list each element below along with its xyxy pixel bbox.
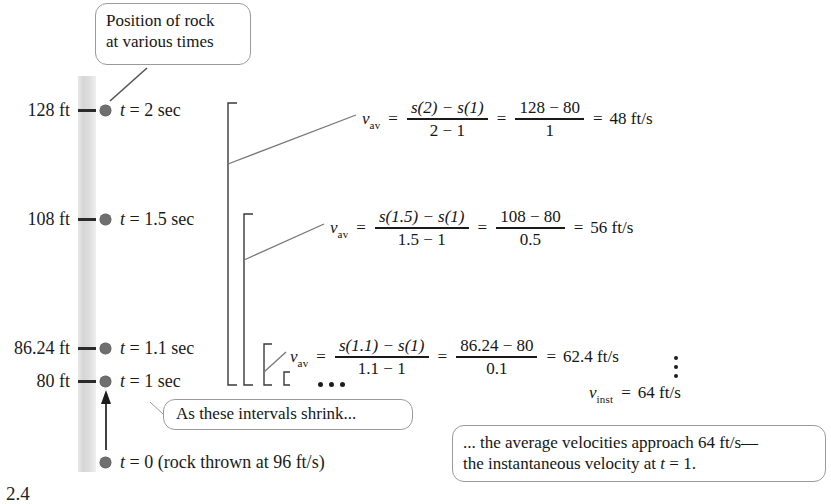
time-label-t15: t = 1.5 sec <box>120 207 194 231</box>
dot <box>674 374 678 378</box>
fraction-numerator: s(1.1) − s(1) <box>335 336 429 356</box>
equals-sign: = <box>546 347 556 367</box>
equals-sign: = <box>388 109 398 129</box>
callout-conclusion: ... the average velocities approach 64 f… <box>452 425 826 482</box>
fraction-numerator: s(1.5) − s(1) <box>375 207 469 227</box>
height-label-108: 108 ft <box>28 207 71 231</box>
equation-lhs-symbol: vav <box>290 347 309 367</box>
callout-position-line2: at various times <box>106 31 240 52</box>
tick-mark-86 <box>78 347 96 350</box>
fraction-denominator: 2 − 1 <box>426 120 469 140</box>
fraction-denominator: 0.1 <box>482 358 511 378</box>
equation-instantaneous: vinst = 64 ft/s <box>589 383 681 403</box>
tick-mark-128 <box>78 109 96 112</box>
fraction-numeric: 108 − 80 0.5 <box>496 207 565 249</box>
equals-sign: = <box>497 109 507 129</box>
callout-conclusion-line2: the instantaneous velocity at t = 1. <box>463 453 815 474</box>
position-dot-t1 <box>100 376 111 387</box>
fraction-denominator: 0.5 <box>516 229 545 249</box>
fraction-denominator: 1.5 − 1 <box>394 229 450 249</box>
equals-sign: = <box>593 109 603 129</box>
leader-line-position-callout <box>110 68 147 101</box>
dot <box>329 382 334 387</box>
fraction-numerator: 108 − 80 <box>496 207 565 227</box>
dot <box>674 356 678 360</box>
equation-lhs-subscript: av <box>298 357 309 369</box>
equals-sign: = <box>621 383 631 403</box>
position-row-t1: 80 ft t = 1 sec <box>0 369 260 393</box>
time-label-t1: t = 1 sec <box>120 369 181 393</box>
dot <box>340 382 345 387</box>
leader-line-shrink-callout <box>150 402 163 414</box>
fraction-numeric: 86.24 − 80 0.1 <box>456 336 537 378</box>
origin-text: = 0 (rock thrown at 96 ft/s) <box>125 452 325 472</box>
equals-sign: = <box>356 218 366 238</box>
equation-av-t11: vav = s(1.1) − s(1) 1.1 − 1 = 86.24 − 80… <box>290 336 619 378</box>
equals-sign: = <box>478 218 488 238</box>
equation-av-t2: vav = s(2) − s(1) 2 − 1 = 128 − 80 1 = 4… <box>362 98 653 140</box>
equation-result: 62.4 ft/s <box>563 347 619 367</box>
equation-lhs-symbol: vinst <box>589 383 614 403</box>
bracket-leader-1 <box>228 115 356 164</box>
height-label-128: 128 ft <box>28 98 71 122</box>
height-label-80: 80 ft <box>37 369 71 393</box>
figure-caption: 2.4 <box>6 483 30 504</box>
position-dot-t11 <box>100 343 111 354</box>
fraction-numerator: 128 − 80 <box>515 98 584 118</box>
time-value: = 1 sec <box>125 371 181 391</box>
dot <box>674 365 678 369</box>
equals-sign: = <box>574 218 584 238</box>
time-label-t11: t = 1.1 sec <box>120 336 194 360</box>
callout-intervals-shrink: As these intervals shrink... <box>163 399 413 430</box>
callout-position-of-rock: Position of rock at various times <box>95 3 251 65</box>
callout-position-line1: Position of rock <box>106 10 240 31</box>
fraction-numerator: 86.24 − 80 <box>456 336 537 356</box>
equation-lhs-subscript: av <box>370 119 381 131</box>
time-value: = 1.5 sec <box>125 209 194 229</box>
position-dot-t2 <box>100 105 111 116</box>
position-row-t15: 108 ft t = 1.5 sec <box>0 207 260 231</box>
height-label-86: 86.24 ft <box>14 336 70 360</box>
equation-lhs-subscript: inst <box>597 393 614 405</box>
tick-mark-108 <box>78 218 96 221</box>
equals-sign: = <box>438 347 448 367</box>
fraction-numeric: 128 − 80 1 <box>515 98 584 140</box>
equation-result: 48 ft/s <box>610 109 653 129</box>
callout-conclusion-line1: ... the average velocities approach 64 f… <box>463 432 815 453</box>
position-dot-t0 <box>100 457 111 468</box>
equation-av-t15: vav = s(1.5) − s(1) 1.5 − 1 = 108 − 80 0… <box>330 207 633 249</box>
fraction-symbolic: s(1.5) − s(1) 1.5 − 1 <box>375 207 469 249</box>
fraction-symbolic: s(1.1) − s(1) 1.1 − 1 <box>335 336 429 378</box>
vertical-ellipsis-icon <box>674 356 678 378</box>
interval-bracket-inner <box>264 344 272 385</box>
conclusion-text-b: = 1. <box>665 454 696 473</box>
position-row-t11: 86.24 ft t = 1.1 sec <box>0 336 260 360</box>
time-value: = 2 sec <box>125 100 181 120</box>
position-row-t0: t = 0 (rock thrown at 96 ft/s) <box>0 450 420 474</box>
equals-sign: = <box>316 347 326 367</box>
position-row-t2: 128 ft t = 2 sec <box>0 98 260 122</box>
time-label-t0: t = 0 (rock thrown at 96 ft/s) <box>120 450 325 474</box>
horizontal-ellipsis-icon <box>318 382 345 387</box>
time-label-t2: t = 2 sec <box>120 98 181 122</box>
equation-lhs-subscript: av <box>338 228 349 240</box>
equation-lhs-symbol: vav <box>330 218 349 238</box>
dot <box>318 382 323 387</box>
equation-lhs-symbol: vav <box>362 109 381 129</box>
conclusion-text-a: the instantaneous velocity at <box>463 454 660 473</box>
tick-mark-80 <box>78 380 96 383</box>
fraction-numerator: s(2) − s(1) <box>407 98 488 118</box>
time-value: = 1.1 sec <box>125 338 194 358</box>
callout-shrink-text: As these intervals shrink... <box>176 404 356 423</box>
bracket-leader-3 <box>264 352 286 372</box>
equation-result: 64 ft/s <box>638 383 681 403</box>
fraction-denominator: 1.1 − 1 <box>354 358 410 378</box>
fraction-symbolic: s(2) − s(1) 2 − 1 <box>407 98 488 140</box>
fraction-denominator: 1 <box>541 120 558 140</box>
position-dot-t15 <box>100 214 111 225</box>
equation-result: 56 ft/s <box>590 218 633 238</box>
height-ruler-bar <box>78 76 96 472</box>
